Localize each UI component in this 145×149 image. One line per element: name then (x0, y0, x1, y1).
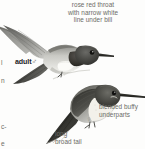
edge-fragment-c: c- (1, 123, 7, 130)
annotation-throat-line-1: rose red throat (51, 1, 135, 9)
annotation-blended-buffy-underparts: blended buffy underparts (99, 103, 138, 118)
annotation-long-broad-tail: long broad tail (55, 130, 82, 145)
label-adult-male: adult♂ (15, 57, 37, 66)
female-symbol-icon: ♀ (86, 116, 92, 124)
annotation-throat-line-2: with narrow white (51, 9, 135, 17)
label-adult-text: adult (15, 58, 31, 66)
annotation-tail-line-1: long (55, 130, 82, 138)
edge-fragment-n: n (1, 77, 5, 84)
annotation-underparts-line-1: blended buffy (99, 103, 138, 111)
field-guide-plate: rose red throat with narrow white line u… (0, 0, 145, 149)
annotation-tail-line-2: broad tail (55, 138, 82, 146)
annotation-underparts-line-2: underparts (99, 111, 138, 119)
annotation-throat-line-3: line under bill (51, 16, 135, 24)
edge-fragment-l: l (1, 59, 2, 66)
edge-fragment-e: e (1, 140, 5, 147)
male-symbol-icon: ♂ (31, 57, 37, 66)
annotation-rose-red-throat: rose red throat with narrow white line u… (51, 1, 135, 24)
